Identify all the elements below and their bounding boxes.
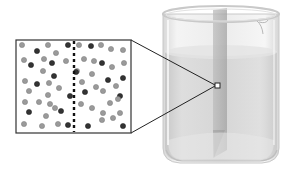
particle-light <box>41 56 46 61</box>
particle-light <box>53 50 58 55</box>
magnify-marker <box>215 83 220 88</box>
particle-dark <box>28 62 33 67</box>
particle-light <box>39 123 44 128</box>
particle-light <box>36 99 41 104</box>
beaker <box>163 6 279 163</box>
particle-light <box>81 56 86 61</box>
magnified-inset <box>16 40 131 133</box>
particle-light <box>45 92 50 97</box>
particle-light <box>99 117 104 122</box>
particle-light <box>91 58 96 63</box>
particle-dark <box>85 123 90 128</box>
particle-light <box>22 78 27 83</box>
particle-light <box>121 60 126 65</box>
particle-light <box>56 85 61 90</box>
particle-dark <box>88 43 93 48</box>
beaker-bottom <box>168 133 274 160</box>
particle-dark <box>99 60 104 65</box>
particle-light <box>78 101 83 106</box>
particle-dark <box>67 93 72 98</box>
beaker-diffusion-diagram <box>0 0 292 169</box>
particle-light <box>113 83 118 88</box>
particle-dark <box>105 77 110 82</box>
particle-light <box>98 42 103 47</box>
particle-light <box>47 101 52 106</box>
particle-light <box>43 113 48 118</box>
particle-dark <box>82 89 87 94</box>
particle-dark <box>58 108 63 113</box>
particle-light <box>46 80 51 85</box>
particle-light <box>100 88 105 93</box>
particle-dark <box>65 42 70 47</box>
particle-dark <box>120 123 125 128</box>
particle-dark <box>120 75 125 80</box>
particle-light <box>89 105 94 110</box>
particle-dark <box>65 122 70 127</box>
particle-light <box>55 121 60 126</box>
particle-light <box>21 121 26 126</box>
particle-dark <box>51 73 56 78</box>
particle-light <box>117 110 122 115</box>
particle-dark <box>34 81 39 86</box>
particle-light <box>63 58 68 63</box>
particle-light <box>52 105 57 110</box>
particle-light <box>100 110 105 115</box>
particle-dark <box>34 48 39 53</box>
particle-light <box>79 79 84 84</box>
particle-light <box>21 57 26 62</box>
particle-light <box>107 100 112 105</box>
particle-light <box>19 42 24 47</box>
particle-light <box>45 42 50 47</box>
particle-light <box>109 64 114 69</box>
particle-light <box>120 47 125 52</box>
particle-light <box>108 46 113 51</box>
particle-dark <box>49 60 54 65</box>
particle-light <box>110 115 115 120</box>
particle-light <box>115 96 120 101</box>
particle-light <box>89 71 94 76</box>
particle-light <box>22 99 27 104</box>
particle-light <box>40 68 45 73</box>
particle-dark <box>26 109 31 114</box>
particle-light <box>26 88 31 93</box>
particle-light <box>76 42 81 47</box>
particle-light <box>93 84 98 89</box>
